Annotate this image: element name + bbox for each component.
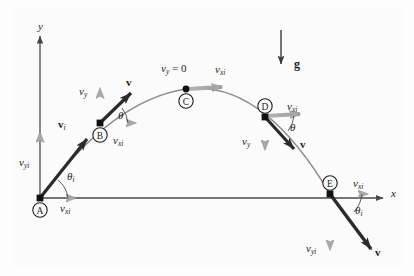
gravity-label: g <box>294 58 300 70</box>
v-initial-vector <box>40 139 87 198</box>
a-theta-i-label: θi <box>67 171 74 183</box>
point-marker-e <box>327 191 334 198</box>
svg-text:D: D <box>262 102 269 112</box>
y-axis-label: y <box>38 21 43 32</box>
b-vxi-label: vxi <box>113 135 123 147</box>
e-v-label: v <box>375 247 381 258</box>
b-vy-label: vy <box>79 86 87 98</box>
station-letter-b: B <box>93 128 107 142</box>
svg-text:E: E <box>327 179 333 189</box>
point-marker-c <box>183 86 190 93</box>
d-vxi-label: vxi <box>287 101 297 113</box>
svg-text:B: B <box>97 131 103 141</box>
vxi-arrow-d <box>266 114 300 116</box>
diagram-canvas: A B C D E <box>0 0 414 276</box>
projectile-motion-figure: A B C D E y x g vy = 0 vxi vyi vxi θi vi… <box>0 0 414 276</box>
svg-text:C: C <box>183 97 189 107</box>
e-theta-i-label: θi <box>355 205 362 217</box>
d-v-label: v <box>300 139 306 150</box>
d-vy-label: vy <box>242 136 250 148</box>
point-marker-b <box>97 120 104 127</box>
vxi-arrow-c <box>187 87 222 89</box>
x-axis-label: x <box>391 188 396 199</box>
v-vector-e <box>330 194 371 249</box>
d-theta-label: θ <box>290 122 295 133</box>
a-vi-label: vi <box>58 119 66 131</box>
station-letter-e: E <box>323 176 337 190</box>
e-vyi-label: vyi <box>306 243 316 255</box>
svg-text:A: A <box>37 206 44 216</box>
b-theta-label: θ <box>118 110 123 121</box>
station-letter-a: A <box>33 203 47 217</box>
e-vxi-label: vxi <box>353 178 363 190</box>
apex-vy-zero-label: vy = 0 <box>161 63 186 75</box>
b-v-label: v <box>126 77 132 88</box>
point-marker-d <box>262 114 269 121</box>
v-vector-b <box>100 93 131 123</box>
a-vyi-label: vyi <box>19 157 29 169</box>
station-letter-d: D <box>258 99 272 113</box>
point-marker-a <box>37 195 44 202</box>
a-vxi-label: vxi <box>60 203 70 215</box>
apex-vxi-label: vxi <box>215 64 225 76</box>
station-letter-c: C <box>179 94 193 108</box>
